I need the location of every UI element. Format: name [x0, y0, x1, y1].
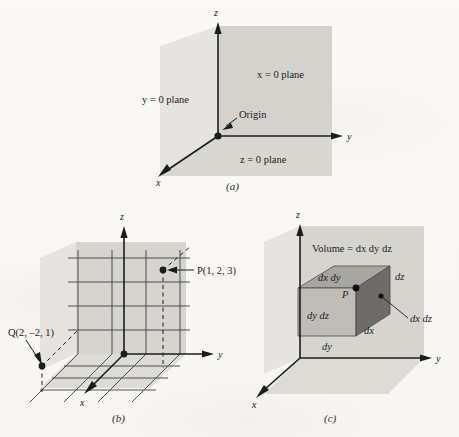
- axis-z-arrowhead: [120, 226, 127, 238]
- plane-x0: [76, 242, 186, 354]
- axis-label-y: y: [346, 131, 352, 142]
- plane-y0-label: y = 0 plane: [142, 94, 189, 105]
- volume-label: Volume = dx dy dz: [312, 243, 392, 254]
- edge-dy-label: dy: [322, 341, 332, 352]
- panel-c-caption: (c): [324, 412, 336, 424]
- axis-label-z: z: [295, 209, 300, 220]
- axis-y-arrowhead: [331, 132, 343, 139]
- panel-a-caption: (a): [226, 180, 239, 192]
- point-p-label: P: [341, 289, 349, 300]
- edge-dx-label: dx: [364, 325, 374, 336]
- axis-label-y: y: [435, 353, 441, 364]
- figure-page: z y x Origin x = 0 plane y = 0 plane z =…: [0, 0, 459, 437]
- plane-x0-label: x = 0 plane: [257, 69, 304, 80]
- point-p-dot: [160, 267, 167, 274]
- point-p-dot: [353, 285, 360, 292]
- point-q-label: Q(2, –2, 1): [8, 327, 55, 339]
- point-q-dot: [39, 363, 46, 370]
- origin-label: Origin: [239, 109, 267, 120]
- point-p-label: P(1, 2, 3): [197, 265, 237, 277]
- axis-label-x: x: [251, 399, 257, 410]
- edge-dz-label: dz: [395, 271, 404, 282]
- box-front-face-label: dy dz: [307, 310, 329, 321]
- plane-z0-label: z = 0 plane: [240, 154, 287, 165]
- axis-label-x: x: [79, 397, 85, 408]
- axis-y-arrowhead: [420, 354, 432, 361]
- origin-dot: [214, 132, 221, 139]
- axis-y-arrowhead: [202, 350, 214, 357]
- panel-a: z y x Origin x = 0 plane y = 0 plane z =…: [120, 8, 350, 186]
- box-top-face-label: dx dy: [318, 272, 341, 283]
- plane-z0: [264, 358, 424, 394]
- axis-label-z: z: [213, 7, 218, 18]
- origin-dot: [121, 351, 128, 358]
- axis-label-z: z: [119, 211, 124, 222]
- plane-y0: [264, 226, 300, 374]
- panel-b: z y x P(1, 2, 3) Q(2, –2, 1): [8, 208, 240, 408]
- axis-label-y: y: [217, 349, 223, 360]
- panel-c: Volume = dx dy dz dx dy dy dz P dx dz dz…: [238, 208, 459, 408]
- panel-b-caption: (b): [112, 412, 125, 424]
- box-right-face-label: dx dz: [410, 313, 432, 324]
- axis-label-x: x: [155, 177, 161, 188]
